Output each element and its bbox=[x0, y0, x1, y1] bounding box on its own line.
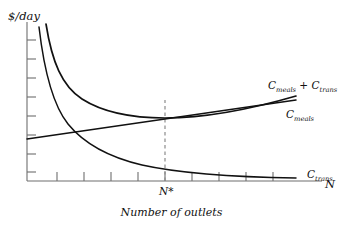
total-symbol: C bbox=[268, 79, 276, 91]
series-label-total: Cmeals + Ctrans bbox=[268, 79, 337, 94]
trans-symbol: C bbox=[307, 168, 315, 180]
y-axis-label: $/day bbox=[8, 9, 40, 23]
total-subscript-meals: meals bbox=[276, 86, 296, 94]
total-symbol-2: C bbox=[311, 79, 319, 91]
meals-symbol: C bbox=[286, 108, 294, 120]
curve-total-cost bbox=[46, 24, 296, 118]
x-axis-end-label: N bbox=[325, 177, 335, 191]
y-axis-ticks bbox=[27, 40, 36, 172]
total-plus-sign: + bbox=[296, 79, 311, 91]
meals-subscript: meals bbox=[294, 115, 314, 123]
total-subscript-trans: trans bbox=[320, 86, 338, 94]
optimum-label: N* bbox=[159, 185, 173, 197]
figure-cost-tradeoff: $/day Cmeals + Ctrans Cmeals Ctrans N* N… bbox=[0, 0, 343, 230]
x-axis-caption: Number of outlets bbox=[0, 206, 343, 219]
curve-c-trans bbox=[39, 27, 296, 178]
series-label-c-meals: Cmeals bbox=[286, 108, 314, 123]
